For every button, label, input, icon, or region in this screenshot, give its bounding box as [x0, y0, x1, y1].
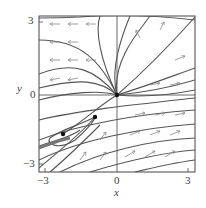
equilibrium-dot [115, 93, 119, 97]
equilibrium-dot [61, 132, 65, 136]
thick-band [39, 138, 70, 148]
y-tick-3: 3 [28, 14, 34, 26]
equilibrium-dot [93, 115, 97, 119]
y-axis-label: y [17, 82, 22, 94]
x-tick-neg3: −3 [37, 174, 49, 186]
phase-portrait [0, 0, 206, 208]
x-tick-3: 3 [185, 174, 191, 186]
x-tick-0: 0 [114, 174, 120, 186]
x-axis-label: x [114, 186, 119, 198]
y-tick-0: 0 [30, 88, 36, 100]
y-tick-neg3: −3 [23, 157, 35, 169]
